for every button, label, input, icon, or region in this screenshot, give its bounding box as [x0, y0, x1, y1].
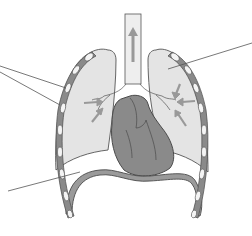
trachea [125, 14, 141, 84]
pointer-ribs-lower [0, 72, 60, 105]
thorax-diagram [0, 0, 252, 236]
pointer-lung [168, 43, 252, 69]
